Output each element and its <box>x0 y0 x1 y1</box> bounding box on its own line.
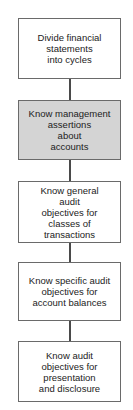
step-label: Know general audit objectives for classe… <box>40 185 98 240</box>
connector-line <box>69 160 71 181</box>
step-divide-statements: Divide financial statements into cycles <box>18 18 121 79</box>
step-management-assertions: Know management assertions about account… <box>18 100 121 160</box>
step-label: Know specific audit objectives for accou… <box>29 275 110 308</box>
connector-line <box>69 243 71 262</box>
step-specific-objectives: Know specific audit objectives for accou… <box>18 262 121 321</box>
step-label: Divide financial statements into cycles <box>38 32 102 65</box>
step-label: Know audit objectives for presentation a… <box>39 350 100 394</box>
connector-line <box>69 79 71 100</box>
connector-line <box>69 321 71 341</box>
step-presentation-objectives: Know audit objectives for presentation a… <box>18 341 121 402</box>
step-general-objectives: Know general audit objectives for classe… <box>18 181 121 243</box>
step-label: Know management assertions about account… <box>29 108 111 152</box>
